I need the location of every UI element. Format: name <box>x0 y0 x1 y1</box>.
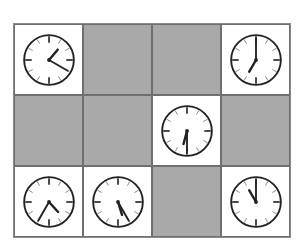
clock-face-icon <box>22 33 76 87</box>
clock-grid-board <box>13 23 291 238</box>
clock-cell[interactable] <box>83 166 152 237</box>
clock-face-icon <box>229 175 283 229</box>
clock-cell[interactable] <box>221 166 290 237</box>
empty-cell[interactable] <box>152 24 221 95</box>
clock-cell[interactable] <box>14 166 83 237</box>
clock-face-icon <box>229 33 283 87</box>
empty-cell[interactable] <box>152 166 221 237</box>
clock-face-icon <box>22 175 76 229</box>
clock-cell[interactable] <box>152 95 221 166</box>
empty-cell[interactable] <box>221 95 290 166</box>
empty-cell[interactable] <box>83 95 152 166</box>
clock-face-icon <box>160 104 214 158</box>
clock-face-icon <box>91 175 145 229</box>
clock-cell[interactable] <box>14 24 83 95</box>
empty-cell[interactable] <box>83 24 152 95</box>
empty-cell[interactable] <box>14 95 83 166</box>
clock-cell[interactable] <box>221 24 290 95</box>
